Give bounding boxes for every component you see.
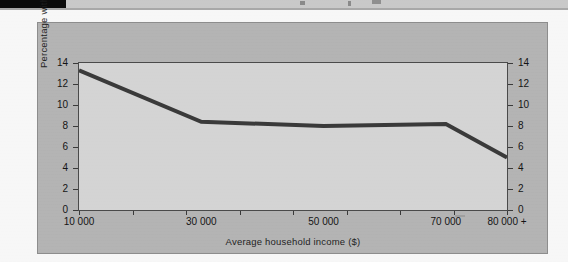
y-axis-tick-label: 14 (50, 58, 68, 68)
x-axis-tick-label: 80 000 + (467, 217, 547, 227)
y-axis-right-tick-mark (508, 189, 513, 190)
y-axis-right-tick-label: 12 (518, 79, 536, 89)
x-axis-tick-label: 30 000 (161, 217, 241, 227)
y-axis-right-tick-mark (508, 147, 513, 148)
series-line-percentage-lower-functional-health (79, 70, 507, 157)
x-axis-tick-label: 10 000 (39, 217, 119, 227)
x-axis-tick-label: 50 000 (284, 217, 364, 227)
y-axis-tick-label: 12 (50, 79, 68, 89)
y-axis-right-tick-mark (508, 63, 513, 64)
y-axis-right-tick-mark (508, 210, 513, 211)
scan-smudge (455, 215, 465, 217)
y-axis-right-tick-label: 14 (518, 58, 536, 68)
plot-area (78, 62, 508, 211)
scan-speckle (300, 1, 305, 5)
y-axis-title: Percentage with lower functional health (38, 0, 49, 68)
y-axis-tick-label: 8 (50, 121, 68, 131)
y-axis-right-tick-mark (508, 126, 513, 127)
y-axis-title-container: Percentage with lower functional health (46, 50, 60, 220)
scan-horizontal-rule (0, 8, 568, 10)
y-axis-right-tick-label: 8 (518, 121, 536, 131)
y-axis-right-tick-mark (508, 84, 513, 85)
y-axis-tick-label: 10 (50, 100, 68, 110)
y-axis-right-tick-label: 10 (518, 100, 536, 110)
y-axis-right-tick-label: 0 (518, 205, 536, 215)
x-axis-title: Average household income ($) (78, 236, 508, 247)
y-axis-right-tick-mark (508, 168, 513, 169)
y-axis-right-tick-label: 2 (518, 184, 536, 194)
y-axis-tick-label: 6 (50, 142, 68, 152)
y-axis-tick-label: 2 (50, 184, 68, 194)
scan-speckle (372, 0, 381, 4)
scan-speckle (348, 1, 351, 6)
y-axis-tick-label: 4 (50, 163, 68, 173)
scanned-page: Percentage with lower functional health … (0, 0, 568, 262)
y-axis-tick-label: 0 (50, 205, 68, 215)
y-axis-right-tick-mark (508, 105, 513, 106)
data-line-chart (79, 63, 507, 210)
y-axis-right-tick-label: 6 (518, 142, 536, 152)
scan-grey-strip (66, 0, 568, 8)
y-axis-right-tick-label: 4 (518, 163, 536, 173)
